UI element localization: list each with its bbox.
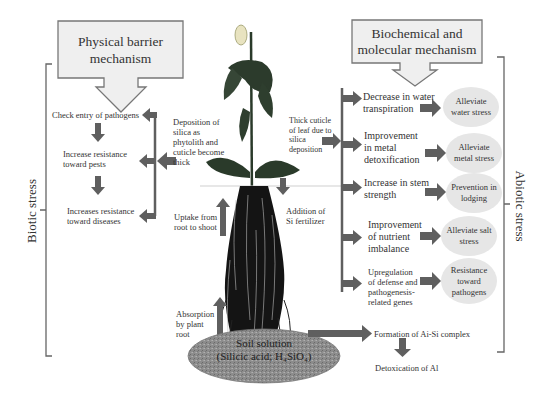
result-pathogens-oval: Resistance toward pathogens — [441, 258, 497, 304]
effect-stem-text: Increase in stem strength — [364, 177, 430, 201]
check-entry-text: Check entry of pathogens — [52, 109, 152, 121]
addition-text: Addition of Si fertilizer — [286, 206, 326, 226]
effect-metal-text: Improvement in metal detoxification — [364, 130, 426, 166]
result-lodging-oval: Prevention in lodging — [446, 173, 502, 213]
abiotic-bracket — [497, 57, 510, 352]
abiotic-stress-label: Abiotic stress — [512, 166, 528, 246]
physical-barrier-title: Physical barrier mechanism — [58, 21, 183, 78]
biotic-left-arrows — [139, 108, 176, 223]
resistance-pests-text: Increase resistance toward pests — [63, 149, 135, 169]
thick-cuticle-text: Thick cuticle of leaf due to silica depo… — [289, 116, 337, 154]
result-water-oval: Alleviate water stress — [443, 87, 499, 127]
deposition-text: Deposition of silica as phytolith and cu… — [173, 117, 225, 167]
biotic-bracket — [40, 64, 52, 356]
resistance-diseases-text: Increases resistance toward diseases — [67, 206, 137, 226]
abiotic-branch-arrows — [342, 91, 362, 291]
effect-genes-text: Upregulation of defense and pathogenesis… — [368, 267, 422, 307]
result-metal-oval: Alleviate metal stress — [446, 133, 502, 173]
al-si-complex-text: Formation of Ai-Si complex — [374, 328, 504, 340]
biochemical-title: Biochemical and molecular mechanism — [352, 20, 482, 63]
uptake-text: Uptake from root to shoot — [174, 212, 220, 232]
soil-solution-label: Soil solution (Silicic acid; H₄SiO₄) — [200, 337, 328, 363]
effect-water-text: Decrease in water transpiration — [363, 91, 443, 115]
absorption-text: Absorption by plant root — [176, 309, 216, 339]
root-illustration — [220, 186, 291, 345]
effect-nutrient-text: Improvement of nutrient imbalance — [368, 219, 422, 255]
al-detox-text: Detoxication of Al — [375, 362, 455, 374]
biotic-stress-label: Biotic stress — [24, 171, 40, 251]
result-salt-oval: Alleviate salt stress — [441, 216, 497, 256]
